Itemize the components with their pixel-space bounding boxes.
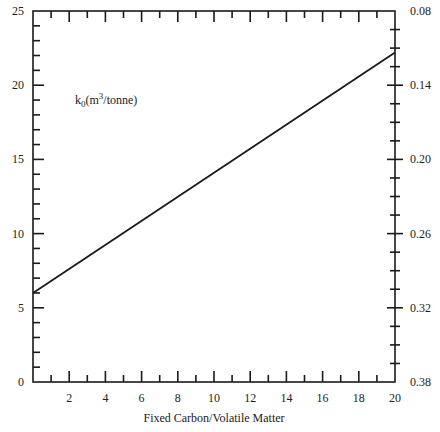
y2-tick-label: 0.14: [410, 78, 431, 92]
y2-tick-label: 0.26: [410, 227, 431, 241]
y-tick-label: 5: [18, 301, 24, 315]
y2-tick-label: 0.38: [410, 375, 431, 389]
y-axis-left: 0510152025: [12, 4, 44, 389]
annotation-unit-post: /tonne): [103, 93, 137, 107]
y2-tick-label: 0.20: [410, 152, 431, 166]
y2-tick-label: 0.08: [410, 4, 431, 18]
y2-tick-label: 0.32: [410, 301, 431, 315]
plot-frame: [33, 11, 395, 382]
x-tick-label: 14: [280, 391, 292, 405]
x-tick-label: 6: [139, 391, 145, 405]
x-axis-title: Fixed Carbon/Volatile Matter: [143, 411, 284, 425]
x-tick-label: 2: [66, 391, 72, 405]
k0-annotation: k0(m3/tonne): [75, 91, 137, 109]
x-tick-label: 10: [208, 391, 220, 405]
x-tick-label: 16: [317, 391, 329, 405]
y-axis-right: 0.080.140.200.260.320.38: [387, 4, 431, 389]
annotation-unit-pre: (m: [86, 93, 100, 107]
y-tick-label: 15: [12, 152, 24, 166]
y-tick-label: 20: [12, 78, 24, 92]
x-tick-label: 18: [353, 391, 365, 405]
series-line-k0: [33, 53, 395, 293]
x-tick-label: 12: [244, 391, 256, 405]
plot-border: [33, 11, 395, 382]
y-tick-label: 0: [18, 375, 24, 389]
data-series: [33, 53, 395, 293]
x-axis: 2468101214161820: [51, 11, 401, 405]
x-tick-label: 20: [389, 391, 401, 405]
y-tick-label: 25: [12, 4, 24, 18]
x-tick-label: 8: [175, 391, 181, 405]
line-chart: 2468101214161820 0510152025 0.080.140.20…: [0, 0, 440, 432]
x-tick-label: 4: [102, 391, 108, 405]
y-tick-label: 10: [12, 227, 24, 241]
